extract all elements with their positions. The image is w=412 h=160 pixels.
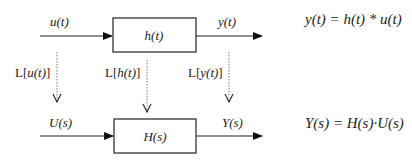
output-label-time: y(t) xyxy=(216,14,236,29)
block-label-time: h(t) xyxy=(145,28,164,43)
s-domain-row: U(s) H(s) Y(s) xyxy=(40,115,262,153)
transform-label-output: L[y(t)] xyxy=(188,65,223,80)
block-diagram: u(t) h(t) y(t) L[u(t)] L[h(t)] L[y(t)] U… xyxy=(0,0,412,160)
input-label-time: u(t) xyxy=(50,14,69,29)
transform-input: L[u(t)] xyxy=(15,52,61,102)
equation-time-domain: y(t) = h(t) * u(t) xyxy=(303,11,402,28)
laplace-transforms: L[u(t)] L[h(t)] L[y(t)] xyxy=(15,52,233,112)
transform-label-input: L[u(t)] xyxy=(15,65,50,80)
block-label-s: H(s) xyxy=(142,129,166,144)
input-label-s: U(s) xyxy=(49,115,72,130)
output-label-s: Y(s) xyxy=(222,115,243,130)
transform-block: L[h(t)] xyxy=(105,60,151,112)
time-domain-row: u(t) h(t) y(t) xyxy=(40,14,262,52)
transform-output: L[y(t)] xyxy=(188,52,233,102)
equation-s-domain: Y(s) = H(s)·U(s) xyxy=(305,115,404,132)
transform-label-block: L[h(t)] xyxy=(105,65,140,80)
